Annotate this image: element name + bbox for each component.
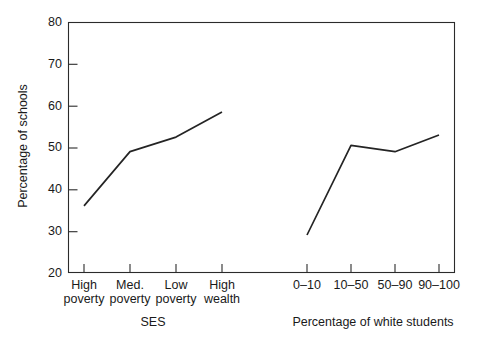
x-tick-label-white-50-90: 50–90 [378,278,413,292]
x-tick-label-line2: poverty [64,292,105,306]
series-line-white-students [307,135,439,235]
x-tick-label-white-90-100: 90–100 [418,278,460,292]
x-tick-marks-white-students [307,264,439,273]
x-tick-label-white-10-50: 10–50 [334,278,369,292]
chart-figure: Percentage of schools 80 70 60 50 40 30 … [0,0,481,352]
x-tick-label-line2: poverty [110,292,151,306]
plot-frame [69,23,455,273]
x-tick-label-line1: High [209,278,235,292]
x-tick-label-line1: High [71,278,97,292]
y-tick-marks [69,64,78,231]
x-tick-label-ses-low-poverty: Low poverty [156,278,197,306]
x-tick-label-white-0-10: 0–10 [293,278,321,292]
x-axis-title-ses: SES [140,315,165,330]
series-line-ses [84,112,222,206]
x-tick-label-line1: Low [165,278,188,292]
x-tick-marks-ses [84,264,222,273]
x-tick-label-ses-high-poverty: High poverty [64,278,105,306]
x-tick-label-ses-high-wealth: High wealth [204,278,240,306]
x-tick-label-ses-med-poverty: Med. poverty [110,278,151,306]
x-axis-title-white-students: Percentage of white students [292,315,453,330]
x-tick-label-line2: poverty [156,292,197,306]
x-tick-label-line1: Med. [116,278,144,292]
x-tick-label-line2: wealth [204,292,240,306]
